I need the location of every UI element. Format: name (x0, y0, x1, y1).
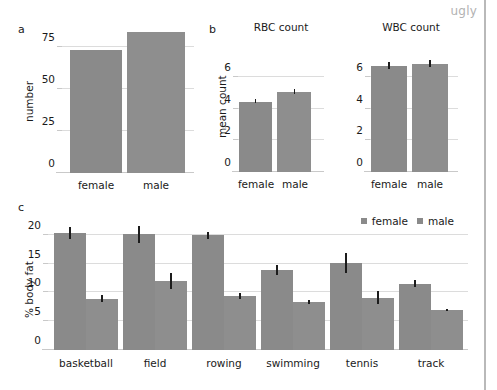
panel-b-rbc-ytick-mark-4 (233, 108, 238, 109)
panel-c-bar-swimming-female[interactable] (261, 270, 293, 350)
panel-c-errorbar-rowing-female (207, 232, 209, 239)
legend-swatch-female-icon (361, 218, 367, 224)
panel-b-wbc-errorbar-male (429, 60, 431, 67)
panel-a-ytick-mark-75 (57, 46, 62, 47)
panel-b-rbc-subtitle: RBC count (254, 22, 309, 33)
panel-c-xtick-label-field: field (144, 358, 167, 369)
panel-b-wbc-ytick-mark-4 (365, 108, 370, 109)
panel-b-wbc-plot-area: 6 4 2 0 (370, 58, 458, 172)
panel-c-errorbar-basketball-female (69, 227, 71, 240)
panel-c-errorbar-track-male (446, 309, 448, 311)
panel-b-wbc-ytick-mark-2 (365, 139, 370, 140)
legend-item-female[interactable]: female (361, 216, 408, 227)
watermark-label: ugly (451, 5, 477, 17)
panel-c-ytick-mark-15 (43, 263, 48, 264)
panel-b-rbc-ytick-label-0: 0 (224, 157, 231, 168)
panel-c-ytick-label-5: 5 (34, 306, 41, 317)
panel-b-rbc-plot-area: 6 4 2 0 (238, 58, 324, 172)
panel-b-rbc-xtick-label-male: male (282, 179, 308, 190)
panel-b-wbc-ytick-label-2: 2 (356, 125, 363, 136)
panel-c-xtick-label-track: track (418, 358, 445, 369)
panel-b-rbc-ytick-mark-0 (233, 171, 238, 172)
panel-c-bar-field-female[interactable] (123, 234, 155, 350)
panel-c-plot-area: 20 15 10 5 0 (48, 226, 468, 350)
panel-a-ytick-mark-50 (57, 88, 62, 89)
panel-a-letter: a (18, 24, 25, 35)
panel-c-bar-tennis-male[interactable] (362, 298, 394, 351)
panel-b-wbc-bar-female[interactable] (371, 66, 407, 172)
panel-a-ytick-label-75: 75 (42, 32, 55, 43)
panel-c-bar-basketball-male[interactable] (86, 299, 118, 350)
panel-c-errorbar-swimming-male (308, 300, 310, 304)
panel-c-errorbar-rowing-male (239, 293, 241, 299)
legend-label-female: female (372, 216, 408, 227)
panel-c-legend: female male (361, 216, 454, 227)
panel-c-errorbar-tennis-female (345, 253, 347, 273)
panel-a-xtick-label-male: male (143, 180, 169, 191)
panel-b-rbc-bar-female[interactable] (239, 102, 272, 173)
panel-b-rbc-ytick-label-4: 4 (224, 93, 231, 104)
panel-b-wbc-ytick-label-6: 6 (356, 62, 363, 73)
panel-c-bar-basketball-female[interactable] (54, 233, 86, 350)
panel-b-wbc-ytick-label-0: 0 (356, 157, 363, 168)
panel-a-ytick-mark-25 (57, 130, 62, 131)
panel-c-ytick-mark-5 (43, 320, 48, 321)
panel-b-wbc-ytick-mark-6 (365, 76, 370, 77)
panel-c-xtick-label-swimming: swimming (266, 358, 320, 369)
panel-c-errorbar-track-female (414, 280, 416, 287)
panel-c: c % body fat female male 20 (0, 196, 490, 390)
panel-c-ytick-label-20: 20 (28, 219, 41, 230)
panel-c-bar-track-male[interactable] (431, 310, 463, 350)
panel-c-bar-track-female[interactable] (399, 284, 431, 350)
panel-b-rbc-xtick-label-female: female (238, 179, 274, 190)
panel-c-bar-rowing-male[interactable] (224, 296, 256, 350)
panel-c-xtick-label-rowing: rowing (206, 358, 241, 369)
panel-c-gridline-20 (48, 234, 468, 235)
panel-c-bar-field-male[interactable] (155, 281, 187, 350)
panel-a-ytick-mark-0 (57, 172, 62, 173)
panel-b-wbc-bar-male[interactable] (412, 64, 448, 173)
panel-a-plot-area: 75 50 25 0 (62, 25, 194, 173)
legend-label-male: male (428, 216, 454, 227)
panel-c-xtick-label-basketball: basketball (59, 358, 113, 369)
panel-b-rbc-ytick-mark-2 (233, 139, 238, 140)
panel-b-letter: b (209, 24, 216, 35)
panel-a-bar-female[interactable] (70, 50, 122, 173)
panel-b-wbc-ytick-mark-0 (365, 171, 370, 172)
panel-c-y-axis-label: % body fat (24, 261, 35, 318)
panel-b-rbc-errorbar-female (255, 99, 257, 103)
panel-b-wbc-errorbar-female (388, 62, 390, 69)
panel-c-errorbar-swimming-female (276, 265, 278, 275)
legend-swatch-male-icon (417, 218, 423, 224)
panel-c-ytick-label-15: 15 (28, 248, 41, 259)
panel-c-gridline-15 (48, 263, 468, 264)
panel-a-ytick-label-50: 50 (42, 74, 55, 85)
panel-c-xtick-label-tennis: tennis (346, 358, 378, 369)
legend-item-male[interactable]: male (417, 216, 454, 227)
panel-b-rbc-ytick-mark-6 (233, 76, 238, 77)
panel-c-ytick-label-0: 0 (34, 335, 41, 346)
panel-c-ytick-mark-10 (43, 291, 48, 292)
panel-b-rbc-ytick-label-2: 2 (224, 125, 231, 136)
panel-b-wbc-ytick-label-4: 4 (356, 93, 363, 104)
panel-c-ytick-mark-0 (43, 349, 48, 350)
panel-c-bar-swimming-male[interactable] (293, 302, 325, 350)
panel-a-y-axis-label: number (24, 81, 35, 122)
panel-c-ytick-label-10: 10 (28, 277, 41, 288)
panel-a-xtick-label-female: female (78, 180, 114, 191)
panel-a: a number 75 50 25 0 female male (0, 0, 205, 196)
panel-c-ytick-mark-20 (43, 234, 48, 235)
panel-c-errorbar-field-female (138, 226, 140, 243)
panel-c-letter: c (18, 202, 24, 213)
panel-a-bar-male[interactable] (127, 32, 185, 173)
panel-c-bar-rowing-female[interactable] (192, 235, 224, 350)
panel-a-ytick-label-0: 0 (48, 158, 55, 169)
panel-c-bar-tennis-female[interactable] (330, 263, 362, 350)
panel-b-wbc-xtick-label-male: male (417, 179, 443, 190)
panel-c-errorbar-tennis-male (377, 291, 379, 305)
panel-b-wbc-subtitle: WBC count (382, 22, 440, 33)
panel-b-rbc-bar-male[interactable] (277, 92, 311, 172)
panel-a-ytick-label-25: 25 (42, 116, 55, 127)
panel-b-wbc-xtick-label-female: female (371, 179, 407, 190)
panel-b-rbc-ytick-label-6: 6 (224, 62, 231, 73)
